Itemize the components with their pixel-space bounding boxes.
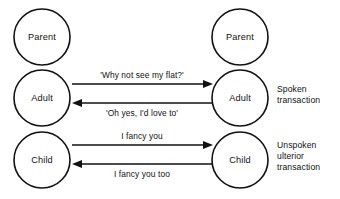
annotation-unspoken-line-3: transaction [277, 162, 320, 172]
right-column-ego-states: Parent Adult Child [212, 9, 268, 188]
ego-state-right-child: Child [212, 132, 268, 188]
ego-state-right-adult: Adult [212, 70, 268, 126]
arrow-head-right-child-outgoing [203, 141, 213, 149]
annotation-spoken-transaction: Spoken transaction [277, 84, 320, 105]
ego-state-left-adult: Adult [14, 70, 70, 126]
ego-label-right-adult: Adult [229, 93, 251, 103]
ego-label-left-adult: Adult [31, 93, 53, 103]
left-column-ego-states: Parent Adult Child [14, 9, 70, 188]
diagram-canvas: Parent Adult Child Parent Adult [0, 0, 340, 199]
annotation-unspoken-line-1: Unspoken [277, 140, 317, 150]
annotation-unspoken-line-2: ulterior [277, 151, 304, 161]
ego-label-left-child: Child [31, 155, 53, 165]
transaction-arrow-child-incoming: I fancy you too [72, 160, 213, 179]
transactional-analysis-diagram: Parent Adult Child Parent Adult [0, 0, 340, 199]
ego-label-right-parent: Parent [226, 32, 254, 42]
ego-state-left-child: Child [14, 132, 70, 188]
ego-state-left-parent: Parent [14, 9, 70, 65]
transaction-label-child-outgoing: I fancy you [121, 131, 163, 141]
transaction-label-child-incoming: I fancy you too [114, 169, 170, 179]
ego-label-left-parent: Parent [28, 32, 56, 42]
arrow-head-left-adult-incoming [72, 99, 82, 107]
transaction-label-adult-incoming: 'Oh yes, I'd love to' [106, 108, 178, 118]
transaction-arrow-child-outgoing: I fancy you [72, 131, 213, 149]
arrow-head-right-adult-outgoing [203, 80, 213, 88]
transaction-arrow-adult-incoming: 'Oh yes, I'd love to' [72, 99, 213, 118]
ego-state-right-parent: Parent [212, 9, 268, 65]
ego-label-right-child: Child [229, 155, 251, 165]
transaction-label-adult-outgoing: 'Why not see my flat?' [100, 70, 184, 80]
annotation-spoken-line-1: Spoken [277, 84, 307, 94]
arrow-head-left-child-incoming [72, 160, 82, 168]
transaction-arrow-adult-outgoing: 'Why not see my flat?' [72, 70, 213, 88]
annotation-unspoken-ulterior-transaction: Unspoken ulterior transaction [277, 140, 320, 172]
annotation-spoken-line-2: transaction [277, 95, 320, 105]
